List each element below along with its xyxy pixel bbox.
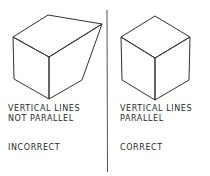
correct-cube-left-face — [121, 37, 155, 100]
correct-caption-line1: VERTICAL LINES — [120, 104, 192, 113]
correct-verdict: CORRECT — [120, 143, 163, 152]
incorrect-caption-line1: VERTICAL LINES — [8, 104, 80, 113]
correct-cube-right-face — [155, 37, 190, 100]
correct-caption-line2: PARALLEL — [120, 114, 164, 123]
incorrect-verdict: INCORRECT — [8, 143, 60, 152]
incorrect-caption-line2: NOT PARALLEL — [8, 114, 74, 123]
correct-cube-top-face — [121, 16, 190, 58]
incorrect-cube-left-face — [13, 37, 49, 99]
incorrect-cube — [13, 15, 102, 99]
incorrect-cube-top-face — [13, 15, 102, 57]
correct-cube — [121, 16, 190, 100]
divider-line — [107, 10, 108, 172]
incorrect-cube-right-face — [49, 24, 102, 99]
